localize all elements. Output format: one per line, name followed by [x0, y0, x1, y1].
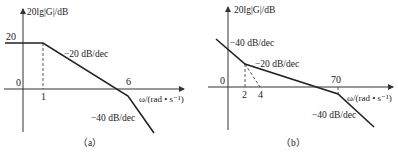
bode-diagrams: 20lg|G|/dB 20 0 1 6 −20 dB/dec −40 dB/de… — [0, 0, 398, 153]
slope-label-b2: −20 dB/dec — [255, 59, 299, 69]
x-tick-1: 1 — [41, 91, 46, 102]
x-axis-label-a: ω/(rad • s⁻¹) — [139, 94, 184, 104]
x-axis-label-b: ω/(rad • s⁻¹) — [347, 93, 392, 103]
panel-b: 20lg|G|/dB −40 dB/dec −20 dB/dec 0 2 4 7… — [208, 5, 393, 148]
origin-label-b: 0 — [220, 75, 225, 86]
y-tick-20: 20 — [6, 31, 16, 42]
slope-label-a1: −20 dB/dec — [64, 49, 108, 59]
x-tick-70: 70 — [331, 74, 341, 85]
x-tick-6: 6 — [126, 76, 131, 87]
x-tick-2: 2 — [242, 89, 247, 100]
slope-label-a2: −40 dB/dec — [91, 113, 135, 123]
y-axis-label-a: 20lg|G|/dB — [27, 7, 68, 17]
caption-b: （b） — [281, 137, 306, 148]
caption-a: （a） — [78, 137, 102, 148]
panel-a: 20lg|G|/dB 20 0 1 6 −20 dB/dec −40 dB/de… — [4, 7, 184, 148]
slope-label-b1: −40 dB/dec — [230, 38, 274, 48]
y-axis-label-b: 20lg|G|/dB — [234, 5, 275, 15]
origin-label-a: 0 — [16, 77, 21, 88]
slope-label-b3: −40 dB/dec — [312, 110, 356, 120]
x-tick-4: 4 — [258, 89, 263, 100]
